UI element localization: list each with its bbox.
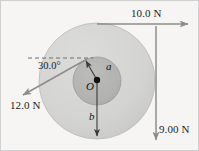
radius-label-b: b: [89, 111, 95, 122]
force-label-10N: 10.0 N: [131, 8, 162, 19]
physics-diagram-figure: 10.0 N 9.00 N 12.0 N 30.0° a b O: [0, 0, 199, 151]
angle-label-30deg: 30.0°: [38, 61, 61, 72]
force-label-12N: 12.0 N: [10, 100, 41, 111]
force-label-9N: 9.00 N: [159, 124, 190, 135]
radius-label-a: a: [106, 61, 112, 72]
origin-label-O: O: [86, 81, 94, 92]
pivot-dot: [94, 77, 100, 83]
